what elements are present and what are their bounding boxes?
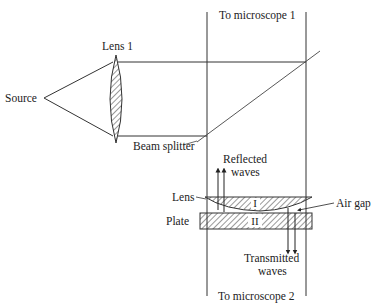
lens1-shape	[110, 55, 122, 143]
interferometer-diagram: I II Source Lens 1 Beam splitter To micr…	[0, 0, 377, 306]
air-gap-leader	[299, 203, 334, 210]
microscope1-label: To microscope 1	[219, 9, 296, 22]
transmitted-label-2: waves	[258, 265, 287, 277]
reflected-label-1: Reflected	[223, 153, 267, 165]
microscope2-label: To microscope 2	[218, 290, 295, 303]
lens1-label: Lens 1	[102, 40, 133, 52]
source-ray-top	[44, 62, 113, 98]
lens-label: Lens	[172, 191, 195, 203]
reflected-label-2: waves	[231, 166, 260, 178]
source-ray-bottom	[44, 98, 113, 136]
beam-splitter-label: Beam splitter	[133, 140, 195, 153]
region-I-label: I	[253, 197, 257, 209]
transmitted-label-1: Transmitted	[244, 252, 299, 264]
air-gap-label: Air gap	[336, 197, 371, 210]
plate-label: Plate	[166, 215, 189, 227]
lens-leader	[196, 197, 206, 199]
region-II-label: II	[251, 215, 259, 227]
source-label: Source	[5, 92, 37, 104]
beam-splitter-line	[197, 51, 320, 142]
